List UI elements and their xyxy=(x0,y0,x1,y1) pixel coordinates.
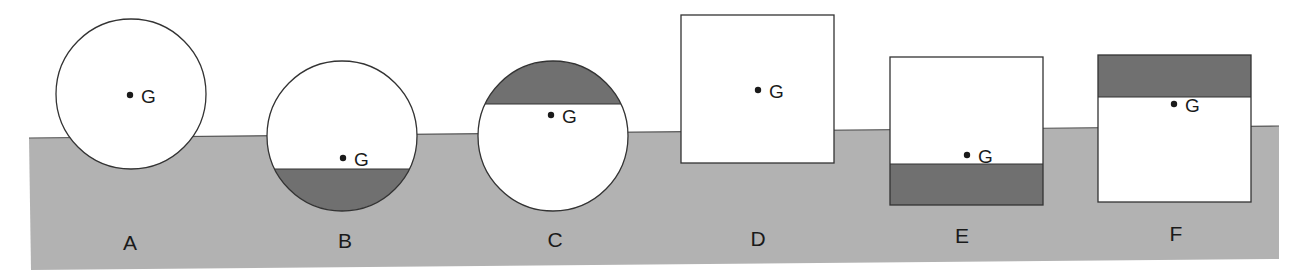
cog-label: G xyxy=(769,81,784,102)
water-region xyxy=(29,126,1279,270)
cog-label: G xyxy=(562,106,577,127)
ballast-band xyxy=(890,164,1043,205)
body-label: B xyxy=(338,229,352,252)
body-label: F xyxy=(1170,222,1183,245)
cog-dot-icon xyxy=(755,87,761,93)
body-label: E xyxy=(955,224,969,247)
body-label: C xyxy=(547,228,562,251)
floating-bodies-diagram: GAGBGCGDGEGF xyxy=(0,0,1304,271)
cog-dot-icon xyxy=(340,155,346,161)
cog-dot-icon xyxy=(548,112,554,118)
cog-label: G xyxy=(354,149,369,170)
cog-dot-icon xyxy=(127,92,133,98)
cog-dot-icon xyxy=(1171,101,1177,107)
body-label: D xyxy=(750,227,765,250)
ballast-band xyxy=(1098,55,1251,97)
cog-dot-icon xyxy=(964,152,970,158)
body-label: A xyxy=(123,231,137,254)
cog-label: G xyxy=(978,146,993,167)
cog-label: G xyxy=(141,86,156,107)
cog-label: G xyxy=(1185,95,1200,116)
